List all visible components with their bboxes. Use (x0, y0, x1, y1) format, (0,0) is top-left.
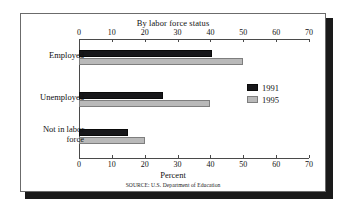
axis-tick-mark (145, 39, 146, 42)
source-note: SOURCE: U.S. Department of Education (21, 182, 325, 188)
axis-tick-label: 50 (239, 28, 247, 37)
axis-tick-mark (210, 155, 211, 158)
axis-tick-mark (309, 155, 310, 158)
axis-tick-mark (243, 155, 244, 158)
axis-tick-label: 10 (108, 28, 116, 37)
bar-1991-employed (79, 50, 212, 57)
axis-tick-label: 40 (206, 28, 214, 37)
axis-tick-label: 20 (141, 160, 149, 169)
axis-tick-mark (145, 155, 146, 158)
bar-1991-not-in-labor-force (79, 129, 128, 136)
axis-tick-mark (178, 39, 179, 42)
category-label: Employed (14, 51, 84, 61)
chart-figure-frame: By labor force status 010203040506070 Em… (20, 13, 326, 192)
axis-tick-mark (243, 39, 244, 42)
legend-label-1991: 1991 (262, 83, 279, 93)
legend-swatch-1991 (247, 84, 258, 91)
axis-tick-mark (79, 155, 80, 158)
axis-tick-mark (112, 155, 113, 158)
axis-tick-label: 70 (305, 160, 313, 169)
axis-tick-label: 50 (239, 160, 247, 169)
axis-tick-label: 30 (174, 28, 182, 37)
axis-tick-label: 0 (77, 28, 81, 37)
axis-tick-label: 60 (272, 28, 280, 37)
category-label: Unemployed (14, 93, 84, 103)
legend-label-1995: 1995 (262, 95, 279, 105)
axis-tick-label: 0 (77, 160, 81, 169)
axis-tick-mark (276, 155, 277, 158)
axis-tick-mark (112, 39, 113, 42)
top-axis-line (79, 39, 309, 40)
bottom-axis-line (79, 158, 309, 159)
axis-tick-label: 30 (174, 160, 182, 169)
axis-tick-label: 20 (141, 28, 149, 37)
legend-swatch-1995 (247, 96, 258, 103)
bar-1995-not-in-labor-force (79, 137, 145, 144)
chart-plot-area: By labor force status 010203040506070 Em… (21, 14, 325, 191)
bar-1995-unemployed (79, 100, 210, 107)
category-label: Not in labor force (14, 125, 84, 144)
bar-1991-unemployed (79, 92, 163, 99)
axis-tick-label: 40 (206, 160, 214, 169)
legend-item: 1995 (247, 94, 279, 105)
axis-tick-label: 60 (272, 160, 280, 169)
chart-title: By labor force status (21, 18, 325, 28)
axis-tick-label: 70 (305, 28, 313, 37)
legend-item: 1991 (247, 82, 279, 93)
chart-legend: 19911995 (247, 82, 279, 106)
axis-tick-mark (178, 155, 179, 158)
axis-tick-label: 10 (108, 160, 116, 169)
bar-1995-employed (79, 58, 243, 65)
top-axis-tick-labels: 010203040506070 (21, 28, 325, 39)
x-axis-title: Percent (21, 170, 325, 180)
axis-tick-mark (210, 39, 211, 42)
axis-tick-mark (309, 39, 310, 42)
axis-tick-mark (276, 39, 277, 42)
